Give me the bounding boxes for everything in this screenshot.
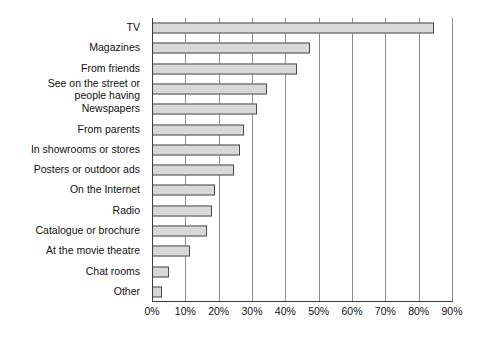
category-label: From parents xyxy=(0,124,140,136)
bar xyxy=(152,266,169,277)
bar xyxy=(152,63,297,74)
bar xyxy=(152,144,240,155)
category-label: At the movie theatre xyxy=(0,246,140,258)
bar-series xyxy=(152,18,452,302)
bar xyxy=(152,124,244,135)
category-label: See on the street or people having xyxy=(0,78,140,101)
category-axis: TVMagazinesFrom friendsSee on the street… xyxy=(0,18,146,302)
tick-label: 30% xyxy=(241,305,262,318)
tick-label: 60% xyxy=(341,305,362,318)
gridline-90 xyxy=(452,18,453,302)
value-axis-ticks: 0%10%20%30%40%50%60%70%80%90% xyxy=(152,305,462,325)
plot-area xyxy=(152,18,452,302)
bar xyxy=(152,104,257,115)
category-label: Newspapers xyxy=(0,104,140,116)
bar xyxy=(152,286,162,297)
bar xyxy=(152,165,234,176)
tick-label: 40% xyxy=(275,305,296,318)
bar xyxy=(152,23,434,34)
bar xyxy=(152,246,190,257)
category-axis-line xyxy=(152,301,453,302)
category-label: From friends xyxy=(0,63,140,75)
category-label: Posters or outdoor ads xyxy=(0,164,140,176)
category-label: On the Internet xyxy=(0,185,140,197)
tick-label: 0% xyxy=(144,305,159,318)
bar xyxy=(152,43,310,54)
bar xyxy=(152,84,267,95)
value-axis-line xyxy=(152,18,153,302)
category-label: Other xyxy=(0,286,140,298)
tick-label: 90% xyxy=(441,305,462,318)
tick-label: 80% xyxy=(408,305,429,318)
category-label: In showrooms or stores xyxy=(0,144,140,156)
category-label: Catalogue or brochure xyxy=(0,225,140,237)
bar-chart: TVMagazinesFrom friendsSee on the street… xyxy=(0,0,485,347)
category-label: Radio xyxy=(0,205,140,217)
category-label: Chat rooms xyxy=(0,266,140,278)
tick-label: 50% xyxy=(308,305,329,318)
tick-label: 20% xyxy=(208,305,229,318)
bar xyxy=(152,185,215,196)
bar xyxy=(152,205,212,216)
tick-label: 10% xyxy=(175,305,196,318)
category-label: TV xyxy=(0,22,140,34)
category-label: Magazines xyxy=(0,43,140,55)
bar xyxy=(152,226,207,237)
tick-label: 70% xyxy=(375,305,396,318)
